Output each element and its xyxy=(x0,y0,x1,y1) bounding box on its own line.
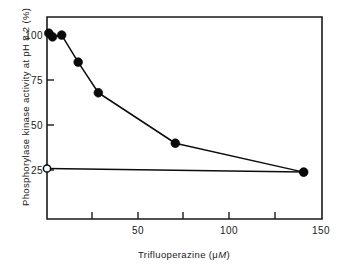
x-tick-labels: 50 100 150 xyxy=(132,225,330,236)
data-point-filled xyxy=(171,139,180,148)
figure-container: 100 75 50 25 50 100 150 Phosphorylase ki… xyxy=(0,0,351,271)
x-tick-label-50: 50 xyxy=(132,225,144,236)
data-point-filled xyxy=(299,168,308,177)
plot-frame xyxy=(47,17,322,219)
series-dose-response-points xyxy=(44,29,308,177)
data-point-filled xyxy=(57,31,66,40)
x-axis-title: Trifluoperazine (μM) xyxy=(138,249,230,260)
chart-canvas: 100 75 50 25 50 100 150 Phosphorylase ki… xyxy=(0,0,351,271)
data-point-filled xyxy=(74,58,83,67)
y-tick-label-50: 50 xyxy=(31,120,43,131)
x-axis-ticks xyxy=(92,212,275,219)
x-axis-title-text: Trifluoperazine (μM) xyxy=(138,249,230,260)
x-tick-label-100: 100 xyxy=(220,225,238,236)
y-axis-ticks xyxy=(47,35,54,170)
y-tick-label-75: 75 xyxy=(31,75,43,86)
data-point-filled xyxy=(94,88,103,97)
data-point-open xyxy=(43,165,50,172)
x-tick-label-150: 150 xyxy=(312,225,330,236)
y-axis-title: Phosphorylase kinase activity at pH 8.2 … xyxy=(20,8,31,206)
y-tick-label-25: 25 xyxy=(31,165,43,176)
series-control-line xyxy=(43,165,307,176)
series-dose-response-line xyxy=(44,29,308,177)
y-axis-title-text: Phosphorylase kinase activity at pH 8.2 … xyxy=(20,8,31,206)
data-point-filled xyxy=(48,32,57,41)
